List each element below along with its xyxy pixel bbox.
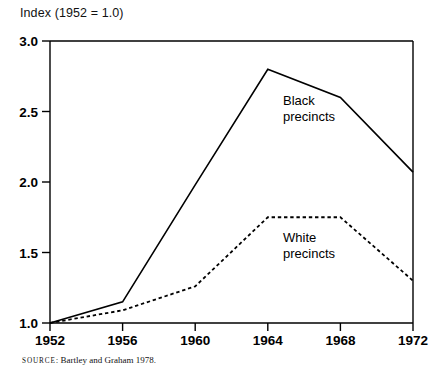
y-axis-ticks	[42, 41, 50, 323]
x-tick-label: 1952	[35, 333, 65, 348]
annotation-black-line2: precincts	[283, 109, 336, 124]
x-tick-label: 1964	[253, 333, 284, 348]
x-tick-label: 1960	[180, 333, 210, 348]
source-note: SOURCE: Bartley and Graham 1978.	[22, 355, 156, 365]
x-axis-tick-labels: 1952 1956 1960 1964 1968 1972	[35, 333, 428, 348]
annotation-white-line1: White	[283, 230, 316, 245]
annotation-white-line2: precincts	[283, 246, 336, 261]
series-line-black-precincts	[50, 69, 413, 323]
annotation-black-precincts: Black precincts	[283, 93, 336, 124]
source-label: SOURCE	[22, 357, 56, 365]
y-tick-label: 1.5	[19, 246, 38, 261]
line-chart-plot: 3.0 2.5 2.0 1.5 1.0 1952 1956 1960 1964 …	[0, 0, 448, 376]
y-tick-label: 2.0	[19, 175, 38, 190]
annotation-white-precincts: White precincts	[283, 230, 336, 261]
chart-figure: Index (1952 = 1.0) 3.0 2.5 2.0 1.5 1.0	[0, 0, 448, 376]
annotation-black-line1: Black	[283, 93, 315, 108]
source-text: : Bartley and Graham 1978.	[56, 355, 156, 365]
y-tick-label: 1.0	[19, 316, 38, 331]
x-axis-ticks	[50, 323, 413, 331]
y-tick-label: 2.5	[19, 105, 38, 120]
x-tick-label: 1956	[108, 333, 139, 348]
y-tick-label: 3.0	[19, 34, 38, 49]
plot-frame	[50, 41, 413, 323]
x-tick-label: 1968	[325, 333, 356, 348]
y-axis-tick-labels: 3.0 2.5 2.0 1.5 1.0	[19, 34, 38, 331]
x-tick-label: 1972	[398, 333, 428, 348]
